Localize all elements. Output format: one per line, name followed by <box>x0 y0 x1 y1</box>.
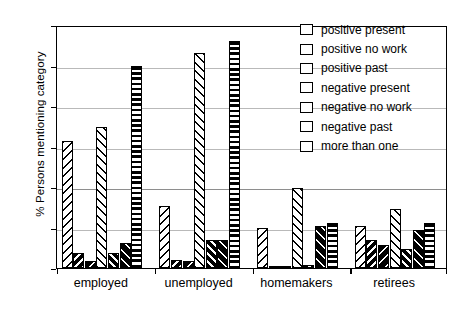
legend-label: negative past <box>321 120 392 134</box>
bar-group <box>159 27 240 268</box>
bar <box>73 253 84 268</box>
y-tick-mark <box>51 188 56 189</box>
x-tick-label: employed <box>47 276 156 290</box>
bar <box>183 261 194 268</box>
bar <box>96 127 107 268</box>
legend-label: positive past <box>321 61 388 75</box>
y-tick-mark <box>51 26 56 27</box>
y-tick-mark <box>51 269 56 270</box>
legend-item: negative present <box>300 78 450 97</box>
bar <box>292 188 303 268</box>
legend-label: positive no work <box>321 42 407 56</box>
bar <box>355 226 366 268</box>
bar <box>229 41 240 268</box>
x-tick-label: homemakers <box>242 276 351 290</box>
bar <box>206 240 217 268</box>
bar <box>378 245 389 268</box>
legend-item: more than one <box>300 136 450 155</box>
x-tick-label: unemployed <box>144 276 253 290</box>
legend-label: positive present <box>321 23 405 37</box>
legend-item: positive no work <box>300 39 450 58</box>
legend-swatch <box>300 102 313 113</box>
bar <box>217 240 228 268</box>
chart-legend: positive presentpositive no workpositive… <box>300 20 450 156</box>
bar <box>131 66 142 269</box>
legend-swatch <box>300 141 313 152</box>
x-tick-mark <box>350 268 351 274</box>
bar <box>280 266 291 268</box>
legend-label: negative no work <box>321 100 412 114</box>
bar <box>194 53 205 268</box>
y-tick-mark <box>51 148 56 149</box>
bar <box>303 265 314 268</box>
x-tick-label: retirees <box>340 276 449 290</box>
bar <box>159 206 170 268</box>
bar <box>62 141 73 268</box>
y-tick-mark <box>51 107 56 108</box>
bar <box>413 230 424 268</box>
legend-label: more than one <box>321 139 398 153</box>
y-tick-mark <box>51 67 56 68</box>
bar <box>108 253 119 268</box>
bar <box>257 228 268 269</box>
legend-item: positive past <box>300 59 450 78</box>
legend-item: negative past <box>300 117 450 136</box>
bar <box>327 223 338 268</box>
bar <box>269 266 280 268</box>
y-axis-title: % Persons mentioning category <box>34 9 46 259</box>
bar <box>390 209 401 268</box>
bar <box>171 260 182 268</box>
chart-container: % Persons mentioning category 0510152025… <box>0 0 458 316</box>
legend-swatch <box>300 24 313 35</box>
bar-group <box>62 27 143 268</box>
legend-swatch <box>300 63 313 74</box>
legend-swatch <box>300 121 313 132</box>
legend-item: negative no work <box>300 98 450 117</box>
bar <box>401 249 412 268</box>
bar <box>85 261 96 268</box>
legend-label: negative present <box>321 81 410 95</box>
x-tick-mark <box>57 268 58 274</box>
x-tick-mark <box>253 268 254 274</box>
x-tick-mark <box>446 268 447 274</box>
legend-item: positive present <box>300 20 450 39</box>
bar <box>366 240 377 268</box>
legend-swatch <box>300 82 313 93</box>
bar <box>315 226 326 268</box>
x-tick-mark <box>155 268 156 274</box>
bar <box>424 223 435 268</box>
legend-swatch <box>300 44 313 55</box>
y-tick-mark <box>51 229 56 230</box>
bar <box>120 243 131 268</box>
